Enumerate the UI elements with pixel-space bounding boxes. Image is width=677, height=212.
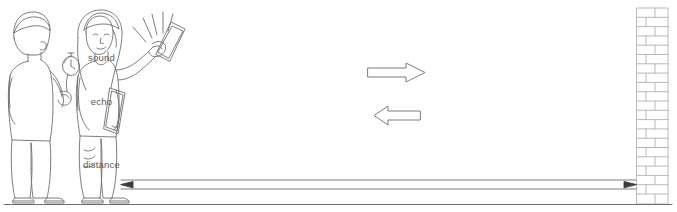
sound-label: sound <box>0 52 440 63</box>
echo-arrow <box>374 106 420 125</box>
sound-burst-lines <box>133 12 173 42</box>
distance-arrow <box>121 180 636 189</box>
sound-arrow <box>368 63 425 82</box>
person-with-stopwatch <box>8 12 79 203</box>
brick-wall <box>637 8 668 204</box>
distance-label: distance <box>0 159 440 170</box>
echo-label: echo <box>0 96 440 107</box>
echo-diagram: sound echo distance <box>0 0 677 212</box>
